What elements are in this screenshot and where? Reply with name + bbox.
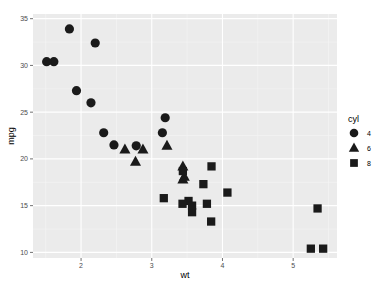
scatter-plot: 2345 101520253035 wt mpg cyl 468 xyxy=(0,0,384,294)
square-marker xyxy=(307,245,315,253)
legend-entry-8: 8 xyxy=(350,159,371,167)
y-tick-label: 25 xyxy=(20,109,28,116)
y-tick-label: 35 xyxy=(20,15,28,22)
legend-title: cyl xyxy=(348,114,359,124)
plot-panel xyxy=(33,14,337,258)
square-marker xyxy=(160,194,168,202)
square-marker xyxy=(207,217,215,225)
legend-entry-4: 4 xyxy=(350,129,371,138)
square-marker xyxy=(199,180,207,188)
x-axis-title: wt xyxy=(180,270,190,280)
square-marker xyxy=(319,245,327,253)
square-marker xyxy=(203,200,211,208)
circle-marker xyxy=(158,128,167,137)
circle-marker xyxy=(65,24,74,33)
y-axis-title: mpg xyxy=(6,127,16,145)
legend-label: 6 xyxy=(367,145,371,152)
square-marker xyxy=(179,167,187,175)
circle-marker xyxy=(109,140,118,149)
y-tick-label: 15 xyxy=(20,202,28,209)
square-marker xyxy=(207,162,215,170)
legend-label: 8 xyxy=(367,160,371,167)
square-marker xyxy=(188,202,196,210)
y-tick-label: 20 xyxy=(20,155,28,162)
x-tick-label: 4 xyxy=(221,262,225,269)
circle-marker xyxy=(91,38,100,47)
square-marker xyxy=(178,200,186,208)
legend: cyl 468 xyxy=(348,114,371,167)
y-axis: 101520253035 xyxy=(20,15,33,256)
circle-marker xyxy=(350,129,359,138)
x-tick-label: 3 xyxy=(150,262,154,269)
y-tick-label: 30 xyxy=(20,62,28,69)
x-tick-label: 5 xyxy=(291,262,295,269)
square-marker xyxy=(313,204,321,212)
circle-marker xyxy=(99,128,108,137)
circle-marker xyxy=(161,113,170,122)
circle-marker xyxy=(72,86,81,95)
y-tick-label: 10 xyxy=(20,249,28,256)
square-marker xyxy=(350,159,358,167)
triangle-marker xyxy=(349,142,359,151)
legend-label: 4 xyxy=(367,130,371,137)
circle-marker xyxy=(86,98,95,107)
x-axis: 2345 xyxy=(79,258,295,269)
circle-marker xyxy=(132,141,141,150)
circle-marker xyxy=(42,57,51,66)
legend-entry-6: 6 xyxy=(349,142,371,151)
square-marker xyxy=(223,188,231,196)
x-tick-label: 2 xyxy=(79,262,83,269)
